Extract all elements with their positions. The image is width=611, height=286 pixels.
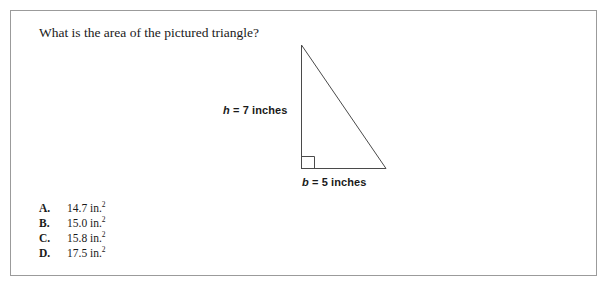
answer-text-b: 15.0 in. xyxy=(67,217,102,229)
question-frame: What is the area of the pictured triangl… xyxy=(10,10,597,276)
answer-exponent-d: 2 xyxy=(102,245,106,254)
answer-option-b[interactable]: B.15.0 in.2 xyxy=(39,214,289,229)
answer-text-d: 17.5 in. xyxy=(67,247,102,259)
base-unit: inches xyxy=(331,176,366,188)
answer-text-c: 15.8 in. xyxy=(67,232,102,244)
answer-exponent-b: 2 xyxy=(102,215,106,224)
question-stem: What is the area of the pictured triangl… xyxy=(39,24,259,41)
height-equals: = xyxy=(233,104,240,116)
answer-value-d: 17.5 in.2 xyxy=(67,246,106,261)
triangle-hypotenuse xyxy=(302,45,387,169)
answer-exponent-a: 2 xyxy=(102,200,106,209)
height-value: 7 xyxy=(243,104,249,116)
page-canvas: What is the area of the pictured triangl… xyxy=(0,0,611,286)
answer-text-a: 14.7 in. xyxy=(67,202,102,214)
right-angle-marker-icon xyxy=(302,157,315,169)
base-variable: b xyxy=(302,176,309,188)
answer-option-c[interactable]: C.15.8 in.2 xyxy=(39,229,289,244)
answer-choices: A.14.7 in.2 B.15.0 in.2 C.15.8 in.2 D.17… xyxy=(39,199,289,259)
height-variable: h xyxy=(223,104,230,116)
answer-option-a[interactable]: A.14.7 in.2 xyxy=(39,199,289,214)
answer-exponent-c: 2 xyxy=(102,230,106,239)
height-unit: inches xyxy=(252,104,287,116)
base-label: b = 5 inches xyxy=(302,176,367,188)
answer-letter-d: D. xyxy=(39,246,67,261)
base-value: 5 xyxy=(322,176,328,188)
base-equals: = xyxy=(312,176,319,188)
height-label: h = 7 inches xyxy=(223,104,288,116)
answer-option-d[interactable]: D.17.5 in.2 xyxy=(39,244,289,259)
